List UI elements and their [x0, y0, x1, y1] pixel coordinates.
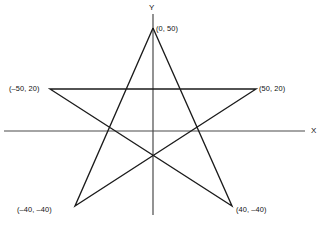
figure-canvas [0, 0, 326, 228]
vertex-label-right: (50, 20) [259, 84, 285, 93]
vertex-label-bottom-right: (40, –40) [236, 205, 266, 214]
vertex-label-left: (–50, 20) [9, 84, 39, 93]
vertex-label-bottom-left: (–40, –40) [17, 205, 52, 214]
vertex-label-top: (0, 50) [156, 24, 178, 33]
x-axis-label: X [311, 126, 316, 135]
star-coordinate-diagram: Y X (0, 50) (–50, 20) (50, 20) (–40, –40… [0, 0, 326, 228]
y-axis-label: Y [149, 3, 154, 12]
